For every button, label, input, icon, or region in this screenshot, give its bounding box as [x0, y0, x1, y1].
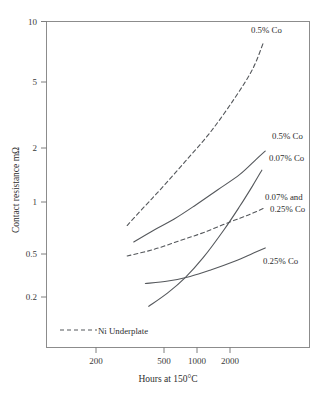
- plot-frame: [47, 22, 310, 348]
- series-curve: [149, 170, 262, 306]
- curve-label-solid-lower: 0.25% Co: [263, 256, 299, 266]
- x-tick-label: 200: [89, 356, 103, 366]
- legend: Ni Underplate: [60, 326, 148, 336]
- data-curves-layer: [127, 42, 265, 306]
- y-tick-label: 1: [33, 197, 38, 207]
- x-axis-title: Hours at 150°C: [138, 374, 197, 384]
- y-axis-ticks: [41, 22, 47, 298]
- curve-annotations: 0.5% Co 0.5% Co 0.07% Co 0.07% and 0.25%…: [251, 25, 306, 266]
- series-curve: [127, 208, 263, 256]
- curve-label-solid-upper: 0.5% Co: [272, 131, 303, 141]
- curve-label-mid-dashed-line2: 0.25% Co: [270, 204, 306, 214]
- chart-container: 10 5 2 1 0.5 0.2 200 500 1000 2000 Hours…: [0, 0, 329, 393]
- contact-resistance-log-log-chart: 10 5 2 1 0.5 0.2 200 500 1000 2000 Hours…: [0, 0, 329, 393]
- curve-label-solid-steep: 0.07% Co: [269, 153, 305, 163]
- series-curve: [145, 248, 265, 284]
- x-tick-label: 1000: [188, 356, 207, 366]
- y-tick-label: 0.5: [26, 249, 38, 259]
- curve-label-top-dashed: 0.5% Co: [251, 25, 282, 35]
- y-tick-label: 10: [28, 17, 38, 27]
- curve-label-mid-dashed-line1: 0.07% and: [265, 192, 303, 202]
- y-tick-label: 0.2: [26, 292, 37, 302]
- x-axis-tick-labels: 200 500 1000 2000: [89, 356, 239, 366]
- y-axis-title: Contact resistance mΩ: [11, 147, 21, 233]
- y-tick-label: 5: [33, 77, 38, 87]
- x-tick-label: 2000: [221, 356, 240, 366]
- y-tick-label: 2: [33, 143, 38, 153]
- series-curve: [127, 42, 263, 225]
- y-axis-tick-labels: 10 5 2 1 0.5 0.2: [26, 17, 38, 303]
- legend-label-ni-underplate: Ni Underplate: [98, 326, 148, 336]
- x-axis-ticks: [96, 348, 230, 354]
- x-tick-label: 500: [157, 356, 171, 366]
